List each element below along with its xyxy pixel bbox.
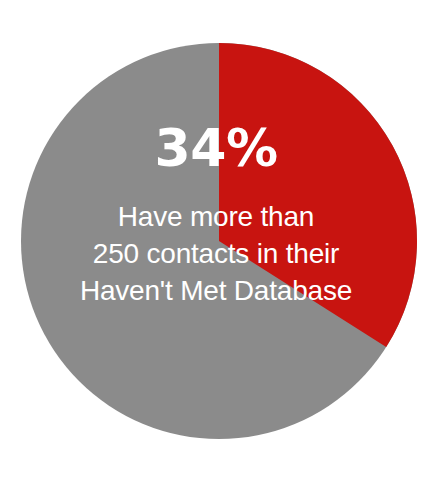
pie-chart-svg <box>0 0 432 479</box>
pie-chart-infographic: 34% Have more than 250 contacts in their… <box>0 0 432 479</box>
pie-chart <box>0 0 432 479</box>
